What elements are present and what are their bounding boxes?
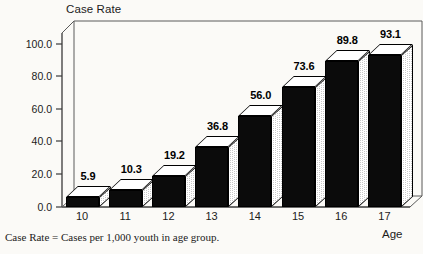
bar-front-face: [109, 190, 142, 207]
x-tick-label-11: 11: [119, 210, 130, 222]
x-tick-label-15: 15: [292, 210, 304, 222]
x-tick-label-13: 13: [205, 210, 217, 222]
bar-age-14: [238, 105, 283, 207]
bar-age-16: [325, 50, 370, 207]
x-tick-label-14: 14: [249, 210, 261, 222]
bar-age-11: [109, 179, 154, 207]
chart-footnote: Case Rate = Cases per 1,000 youth in age…: [5, 231, 219, 243]
y-tick-label: 0.0: [8, 201, 52, 213]
bar-age-15: [282, 76, 327, 207]
bar-value-label: 56.0: [250, 89, 271, 101]
x-axis-title: Age: [382, 228, 402, 240]
bar-value-label: 73.6: [293, 60, 314, 72]
bar-age-10: [66, 186, 111, 207]
bar-value-label: 36.8: [207, 120, 228, 132]
y-tick-label: 80.0: [8, 70, 52, 82]
bar-front-face: [282, 87, 315, 207]
bar-front-face: [152, 176, 185, 207]
bar-value-label: 89.8: [337, 34, 358, 46]
y-tick-label: 60.0: [8, 103, 52, 115]
bar-age-12: [152, 165, 197, 207]
bar-age-13: [195, 136, 240, 207]
x-tick-label-10: 10: [76, 210, 88, 222]
bar-value-label: 19.2: [164, 149, 185, 161]
bar-front-face: [368, 55, 401, 207]
bar-front-face: [238, 116, 271, 207]
bar-front-face: [66, 197, 99, 207]
bar-value-label: 10.3: [121, 163, 142, 175]
x-tick-label-12: 12: [162, 210, 174, 222]
x-tick-label-16: 16: [335, 210, 347, 222]
chart-title: Case Rate: [66, 3, 121, 15]
x-tick-label-17: 17: [378, 210, 390, 222]
bar-age-17: [368, 44, 413, 207]
bar-value-label: 93.1: [380, 28, 401, 40]
y-tick-label: 100.0: [8, 38, 52, 50]
y-axis-tick-labels: 100.0 80.0 60.0 40.0 20.0 0.0: [4, 0, 52, 254]
bar-value-label: 5.9: [81, 170, 96, 182]
bar-side-face: [401, 44, 413, 207]
chart-container: Case Rate 100.0 80.0 60.0 40.0 20.0 0.: [0, 0, 423, 254]
y-tick-label: 40.0: [8, 135, 52, 147]
y-tick-label: 20.0: [8, 168, 52, 180]
bar-front-face: [195, 147, 228, 207]
bar-front-face: [325, 61, 358, 207]
